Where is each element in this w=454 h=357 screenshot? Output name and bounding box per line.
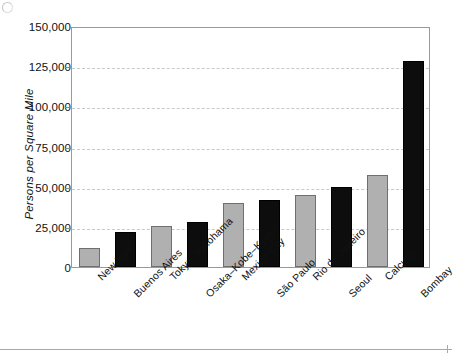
y-axis-tick-label: 100,000: [7, 101, 71, 113]
bar: [403, 61, 424, 267]
bar: [367, 175, 388, 267]
y-axis-tick-label: 150,000: [7, 21, 71, 33]
page-rule-tick: [447, 345, 448, 353]
plot-area: [71, 27, 430, 268]
bar: [79, 248, 100, 267]
y-axis-tick-label: 75,000: [7, 142, 71, 154]
x-axis-tick-label: Bombay: [418, 263, 454, 299]
y-axis-tick-label: 25,000: [7, 222, 71, 234]
y-axis-tick-label: 50,000: [7, 182, 71, 194]
x-axis-tick-label: Seoul: [346, 272, 374, 300]
x-axis-labels: New YorkBuenos AiresTokyo–YokohamaOsaka–…: [0, 268, 452, 357]
bar: [295, 195, 316, 267]
y-axis-tick-label: 125,000: [7, 61, 71, 73]
bar-series: [72, 28, 429, 267]
page-rule: [0, 349, 452, 350]
